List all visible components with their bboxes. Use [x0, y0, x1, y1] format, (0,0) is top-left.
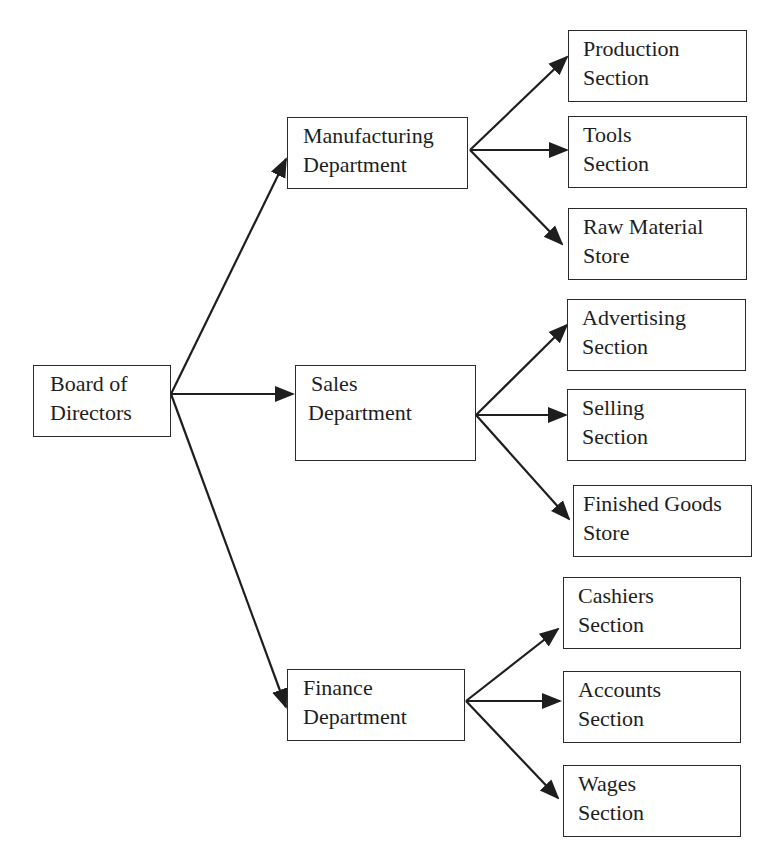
node-label-line: Production: [583, 34, 746, 63]
node-label-line: Section: [578, 798, 740, 827]
arrow-sales-to-finished-goods: [476, 415, 569, 519]
node-accounts-section: Accounts Section: [563, 671, 741, 743]
node-label-line: Cashiers: [578, 581, 740, 610]
node-label-line: Wages: [578, 769, 740, 798]
node-tools-section: Tools Section: [568, 116, 747, 188]
node-label-line: Finished Goods: [583, 489, 751, 518]
node-label-line: Accounts: [578, 675, 740, 704]
node-label-line: Department: [303, 702, 464, 731]
node-label-line: Finance: [303, 673, 464, 702]
node-label-line: Section: [578, 704, 740, 733]
node-label-line: Section: [578, 610, 740, 639]
node-label-line: Section: [583, 63, 746, 92]
node-label-line: Store: [583, 518, 751, 547]
node-raw-material-store: Raw Material Store: [568, 208, 747, 280]
arrow-sales-to-advertising: [476, 325, 567, 415]
arrow-manufacturing-to-raw-material: [470, 150, 562, 244]
arrow-board-to-manufacturing: [171, 159, 286, 394]
arrow-finance-to-cashiers: [466, 629, 558, 701]
node-selling-section: Selling Section: [567, 389, 746, 461]
node-label-line: Advertising: [582, 303, 745, 332]
node-label-line: Department: [303, 150, 467, 179]
arrow-finance-to-wages: [466, 701, 558, 798]
node-label-line: Section: [582, 332, 745, 361]
node-label-line: Selling: [582, 393, 745, 422]
arrow-board-to-finance: [171, 394, 286, 707]
node-production-section: Production Section: [568, 30, 747, 102]
node-sales-department: Sales Department: [295, 365, 476, 461]
node-label-line: Department: [308, 398, 475, 427]
node-wages-section: Wages Section: [563, 765, 741, 837]
node-advertising-section: Advertising Section: [567, 299, 746, 371]
node-label-line: Board of: [50, 369, 170, 398]
node-board-of-directors: Board of Directors: [33, 365, 171, 437]
node-label-line: Section: [583, 149, 746, 178]
org-chart-diagram: Board of Directors Manufacturing Departm…: [0, 0, 778, 863]
node-label-line: Tools: [583, 120, 746, 149]
node-label-line: Manufacturing: [303, 121, 467, 150]
node-finished-goods-store: Finished Goods Store: [573, 485, 752, 557]
node-finance-department: Finance Department: [287, 669, 465, 741]
arrow-manufacturing-to-production: [470, 57, 567, 150]
node-label-line: Store: [583, 241, 746, 270]
node-label-line: Section: [582, 422, 745, 451]
node-manufacturing-department: Manufacturing Department: [287, 117, 468, 189]
node-label-line: Sales: [308, 369, 475, 398]
node-label-line: Directors: [50, 398, 170, 427]
node-cashiers-section: Cashiers Section: [563, 577, 741, 649]
node-label-line: Raw Material: [583, 212, 746, 241]
